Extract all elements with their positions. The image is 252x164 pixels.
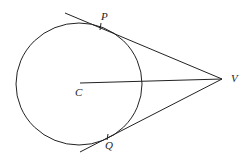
segment-cv (80, 79, 222, 83)
circle (16, 23, 142, 145)
label-v: V (231, 72, 238, 84)
diagram: P C V Q (0, 0, 252, 164)
tick-mark-p (100, 23, 101, 30)
label-c: C (75, 86, 82, 98)
label-p: P (101, 10, 108, 22)
tangent-line-vq (80, 79, 222, 152)
geometry-figure (0, 0, 252, 164)
tangent-line-vp (65, 13, 222, 79)
label-q: Q (105, 139, 113, 151)
